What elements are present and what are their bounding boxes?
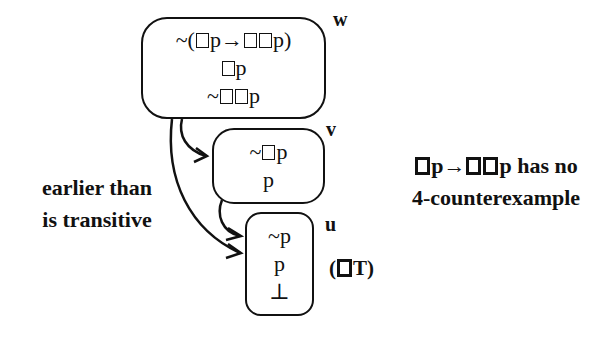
box-operator-icon (220, 89, 233, 104)
world-w-box: ~(p→p) p ~p (141, 17, 326, 119)
world-v-box: ~p p (212, 128, 325, 204)
box-operator-icon (337, 259, 352, 277)
formula: p (221, 54, 247, 82)
world-label-u: u (325, 213, 336, 236)
world-label-w: w (333, 8, 347, 31)
formula: ~(p→p) (176, 26, 292, 54)
left-note-line-1: earlier than (22, 172, 172, 204)
world-u-box: ~p p ⊥ (245, 212, 314, 316)
formula: p (263, 166, 274, 194)
right-note-line-2: 4-counterexample (382, 182, 610, 214)
arrow-w-to-v (181, 119, 206, 156)
rule-label: (T) (329, 256, 374, 281)
world-label-v: v (326, 118, 336, 141)
box-operator-icon (259, 33, 272, 48)
formula: p (274, 250, 285, 278)
right-note-line-1: p→p has no (382, 150, 610, 182)
formula: ~p (207, 82, 260, 110)
formula: ~p (250, 138, 288, 166)
box-operator-icon (235, 89, 248, 104)
box-operator-icon (222, 61, 235, 76)
formula: ~p (268, 222, 291, 250)
box-operator-icon (262, 145, 275, 160)
box-operator-icon (415, 157, 430, 175)
left-note-line-2: is transitive (22, 204, 172, 236)
right-note: p→p has no 4-counterexample (382, 150, 610, 214)
box-operator-icon (466, 157, 481, 175)
formula: ⊥ (269, 278, 290, 306)
box-operator-icon (483, 157, 498, 175)
box-operator-icon (196, 33, 209, 48)
box-operator-icon (244, 33, 257, 48)
left-note: earlier than is transitive (22, 172, 172, 236)
